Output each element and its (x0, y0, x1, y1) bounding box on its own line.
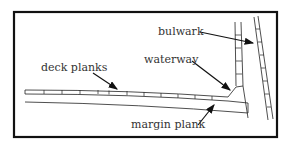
deck-planks-shape (25, 90, 248, 113)
outer-bulwark (254, 16, 273, 120)
label-margin-plank: margin plank (131, 118, 206, 131)
deck-planks-arrow (93, 73, 117, 89)
ship-deck-diagram: bulwark waterway deck planks margin plan… (0, 0, 292, 148)
label-bulwark: bulwark (158, 25, 204, 38)
label-waterway: waterway (144, 53, 199, 66)
label-deck-planks: deck planks (41, 61, 108, 74)
label-arrows (93, 32, 253, 125)
inner-bulwark-post (235, 22, 248, 118)
bulwark-arrow (200, 32, 253, 43)
